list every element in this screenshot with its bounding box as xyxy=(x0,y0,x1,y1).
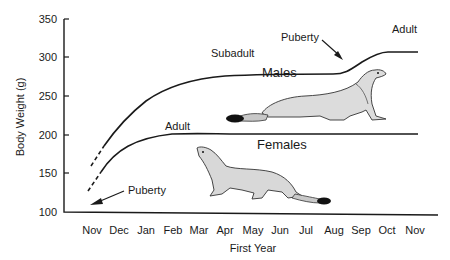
y-tick-label: 250 xyxy=(39,90,57,102)
females-curve-dashed xyxy=(88,172,101,191)
y-axis-title: Body Weight (g) xyxy=(14,78,26,157)
x-axis-title: First Year xyxy=(230,242,277,254)
x-tick-label: Jul xyxy=(299,224,313,236)
males-curve-dashed xyxy=(91,146,104,166)
y-tick-label: 200 xyxy=(39,129,57,141)
annotation-puberty-male: Puberty xyxy=(281,31,319,43)
chart-svg: 350 300 250 200 150 100 Body Weight (g) … xyxy=(0,0,450,260)
arrowhead-puberty-female xyxy=(90,198,103,205)
x-tick-label: Aug xyxy=(324,224,344,236)
annotation-adult-female: Adult xyxy=(165,120,190,132)
y-tick-label: 100 xyxy=(39,206,57,218)
x-tick-label: Oct xyxy=(378,224,395,236)
annotation-adult-male: Adult xyxy=(392,23,417,35)
x-tick-label: Apr xyxy=(216,224,233,236)
x-tick-label: Nov xyxy=(82,224,102,236)
y-tick-label: 350 xyxy=(39,13,57,25)
arrow-puberty-female xyxy=(98,191,124,202)
x-tick-label: Jun xyxy=(271,224,289,236)
x-tick-label: Sep xyxy=(351,224,371,236)
x-tick-label: Feb xyxy=(164,224,183,236)
y-tick-label: 300 xyxy=(39,51,57,63)
x-tick-label: Nov xyxy=(405,224,425,236)
series-label-females: Females xyxy=(257,137,307,152)
female-weasel-illustration xyxy=(197,147,331,205)
body-weight-chart: 350 300 250 200 150 100 Body Weight (g) … xyxy=(0,0,450,260)
y-ticks xyxy=(64,19,69,173)
x-tick-label: May xyxy=(243,224,264,236)
annotation-puberty-female: Puberty xyxy=(128,184,166,196)
x-tick-label: Dec xyxy=(109,224,129,236)
annotation-subadult: Subadult xyxy=(211,47,254,59)
y-tick-label: 150 xyxy=(39,167,57,179)
male-weasel-illustration xyxy=(226,70,386,123)
series-label-males: Males xyxy=(262,65,297,80)
x-tick-label: Mar xyxy=(190,224,209,236)
x-tick-label: Jan xyxy=(137,224,155,236)
